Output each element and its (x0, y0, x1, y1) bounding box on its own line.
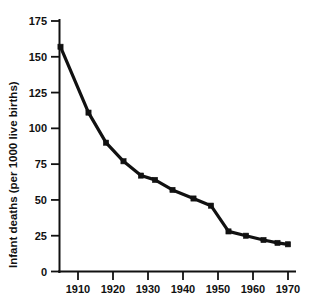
data-point-1937-57 (170, 187, 175, 192)
infant-mortality-line-chart: 0255075100125150175 19101920193019401950… (0, 0, 310, 308)
y-axis-title: Infant deaths (per 1000 live births) (7, 81, 19, 268)
data-point-1958-25 (243, 233, 248, 238)
x-axis-tick-labels: 1910192019301940195019601970 (66, 283, 300, 295)
series-markers (58, 44, 291, 247)
y-tick-label-175: 175 (29, 15, 47, 27)
x-tick-label-1910: 1910 (66, 283, 90, 295)
y-tick-label-50: 50 (35, 194, 47, 206)
data-point-1948-46 (208, 203, 213, 208)
x-tick-label-1970: 1970 (276, 283, 300, 295)
y-axis-ticks (51, 21, 59, 272)
data-point-1913-111 (86, 110, 91, 115)
x-axis-ticks (78, 272, 288, 280)
y-axis-group: 0255075100125150175 (29, 15, 60, 278)
series-line-infant-deaths (61, 47, 289, 245)
data-point-1953-28 (226, 229, 231, 234)
y-tick-label-25: 25 (35, 230, 47, 242)
data-point-1967-20 (275, 240, 280, 245)
x-tick-label-1930: 1930 (136, 283, 160, 295)
data-point-1923-77 (121, 159, 126, 164)
data-point-1932-64 (152, 177, 157, 182)
data-point-1970-19 (285, 242, 290, 247)
x-tick-label-1940: 1940 (171, 283, 195, 295)
data-point-1918-90 (103, 140, 108, 145)
x-tick-label-1960: 1960 (241, 283, 265, 295)
x-tick-label-1920: 1920 (101, 283, 125, 295)
data-point-1943-51 (191, 196, 196, 201)
data-point-1905-157 (58, 44, 63, 49)
data-point-1963-22 (261, 237, 266, 242)
data-series-group (58, 44, 291, 247)
y-axis-tick-labels: 0255075100125150175 (29, 15, 47, 278)
x-tick-label-1950: 1950 (206, 283, 230, 295)
x-axis-group: 1910192019301940195019601970 (59, 272, 300, 296)
y-tick-label-150: 150 (29, 51, 47, 63)
y-tick-label-100: 100 (29, 122, 47, 134)
y-tick-label-125: 125 (29, 87, 47, 99)
chart-canvas: 0255075100125150175 19101920193019401950… (0, 0, 310, 308)
y-tick-label-0: 0 (41, 266, 47, 278)
y-tick-label-75: 75 (35, 158, 47, 170)
data-point-1928-67 (138, 173, 143, 178)
